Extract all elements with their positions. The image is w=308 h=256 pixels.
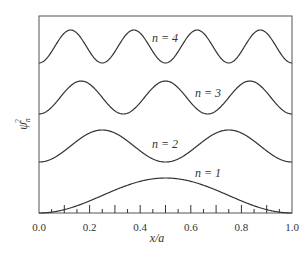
- plot-frame: [39, 16, 292, 213]
- x-axis-ticks: [52, 205, 280, 213]
- curve-n3: [39, 81, 292, 114]
- x-tick-label: 0.4: [133, 221, 147, 233]
- label-n4: n = 4: [152, 31, 178, 45]
- label-n2: n = 2: [152, 137, 178, 151]
- x-tick-label: 0.6: [184, 221, 198, 233]
- svg-text:ψn2: ψn2: [14, 118, 32, 129]
- x-tick-label: 1.0: [285, 221, 299, 233]
- chart: n = 4 n = 3 n = 2 n = 1 0.00.20.40.60.81…: [0, 0, 308, 256]
- x-axis-label: x/a: [149, 231, 165, 245]
- y-axis-label: ψn2: [14, 118, 32, 129]
- x-tick-label: 0.2: [83, 221, 97, 233]
- x-tick-label: 0.8: [235, 221, 249, 233]
- label-n1: n = 1: [195, 166, 221, 180]
- label-n3: n = 3: [195, 86, 221, 100]
- x-tick-label: 0.0: [32, 221, 46, 233]
- x-tick-labels: 0.00.20.40.60.81.0: [32, 221, 299, 233]
- curves: [39, 30, 292, 213]
